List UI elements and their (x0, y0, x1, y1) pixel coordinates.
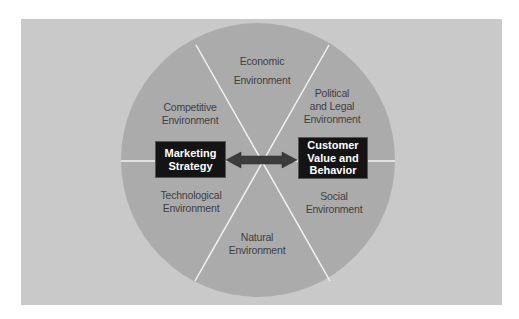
segment-social: Social Environment (294, 190, 374, 216)
natural-line-1: Natural (217, 231, 297, 244)
customer-value-line-3: Behavior (307, 164, 358, 177)
natural-line-2: Environment (217, 244, 297, 257)
marketing-strategy-line-1: Marketing (165, 147, 217, 160)
political-line-1: Political (292, 87, 372, 100)
political-line-3: Environment (292, 113, 372, 126)
marketing-strategy-box: Marketing Strategy (155, 141, 226, 178)
social-line-2: Environment (294, 203, 374, 216)
competitive-line-2: Environment (150, 114, 230, 127)
economic-line-1: Economic (222, 52, 302, 71)
segment-natural: Natural Environment (217, 231, 297, 257)
technological-line-2: Environment (150, 202, 232, 215)
segment-competitive: Competitive Environment (150, 101, 230, 127)
economic-line-2: Environment (222, 71, 302, 90)
segment-economic: Economic Environment (222, 52, 302, 90)
segment-technological: Technological Environment (150, 189, 232, 215)
political-line-2: and Legal (292, 100, 372, 113)
customer-value-box: Customer Value and Behavior (298, 137, 368, 179)
competitive-line-1: Competitive (150, 101, 230, 114)
technological-line-1: Technological (150, 189, 232, 202)
marketing-strategy-line-2: Strategy (165, 160, 217, 173)
customer-value-line-1: Customer (307, 139, 358, 152)
segment-political: Political and Legal Environment (292, 87, 372, 126)
social-line-1: Social (294, 190, 374, 203)
customer-value-line-2: Value and (307, 152, 358, 165)
diagram-graphics (0, 0, 519, 319)
